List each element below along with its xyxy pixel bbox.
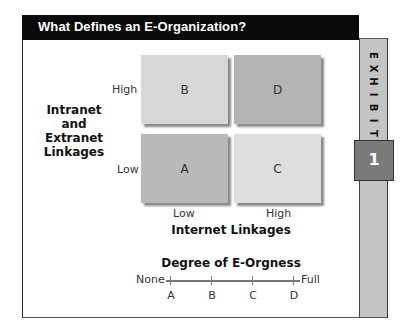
y-axis-label-line: Intranet — [34, 103, 114, 117]
quadrant-a-label: A — [141, 162, 228, 176]
y-tick-high: High — [112, 83, 137, 96]
scale-tick-label: C — [248, 289, 258, 302]
scale-tick — [252, 276, 253, 285]
scale-tick — [211, 276, 212, 285]
scale-right-label: Full — [301, 273, 320, 286]
scale-line — [172, 280, 294, 282]
quadrant-b-label: B — [141, 83, 228, 97]
scale-tick-label: A — [166, 289, 176, 302]
scale-left-label: None — [136, 273, 165, 286]
quadrant-c-label: C — [234, 162, 321, 176]
scale-title: Degree of E-Orgness — [141, 256, 321, 270]
scale-tick-label: D — [289, 289, 299, 302]
quadrant-d-label: D — [234, 83, 321, 97]
x-tick-high: High — [266, 207, 291, 220]
scale-tick — [170, 276, 171, 285]
exhibit-title: What Defines an E-Organization? — [38, 19, 246, 34]
y-axis-label-line: Extranet — [34, 131, 114, 145]
y-axis-label: Intranet and Extranet Linkages — [34, 103, 114, 159]
x-tick-low: Low — [173, 207, 195, 220]
scale-tick — [293, 276, 294, 285]
x-axis-label: Internet Linkages — [141, 223, 321, 237]
exhibit-number: 1 — [354, 150, 394, 169]
y-axis-label-line: and — [34, 117, 114, 131]
scale-tick-label: B — [207, 289, 217, 302]
y-axis-label-line: Linkages — [34, 145, 114, 159]
y-tick-low: Low — [117, 163, 139, 176]
